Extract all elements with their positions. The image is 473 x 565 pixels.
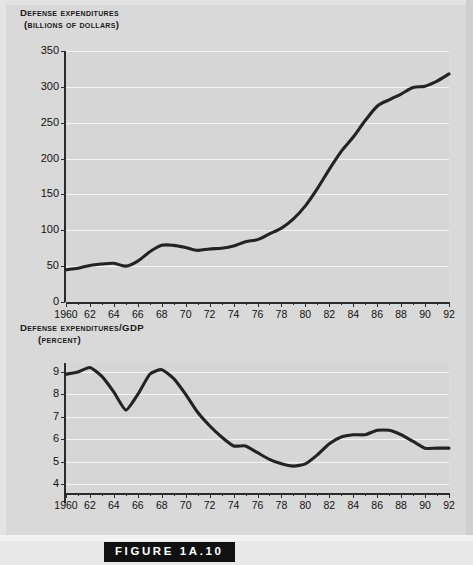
y-axis-tick-label: 8 bbox=[26, 387, 59, 399]
y-axis-tick-mark bbox=[61, 230, 65, 231]
x-axis-tick-mark bbox=[425, 493, 426, 498]
y-axis-tick-mark bbox=[61, 87, 65, 88]
chart-title-defense-expenditures-gdp: Defense expenditures/GDP (percent) bbox=[20, 322, 144, 345]
chart-title-line1: Defense expenditures bbox=[20, 7, 119, 18]
x-axis-tick-mark bbox=[246, 493, 247, 496]
x-axis-tick-mark bbox=[449, 302, 450, 307]
x-axis-tick-label: 82 bbox=[323, 499, 335, 511]
x-axis-tick-mark bbox=[102, 493, 103, 496]
x-axis-tick-mark bbox=[234, 493, 235, 498]
y-axis-tick-label: 6 bbox=[26, 432, 59, 444]
x-axis-tick-label: 68 bbox=[156, 308, 168, 320]
x-axis-tick-mark bbox=[353, 493, 354, 498]
x-axis-tick-mark bbox=[437, 493, 438, 496]
y-axis-tick-label: 7 bbox=[26, 410, 59, 422]
x-axis-tick-mark bbox=[126, 493, 127, 496]
x-axis-tick-label: 86 bbox=[371, 308, 383, 320]
chart-title-gdp-line2: (percent) bbox=[20, 334, 144, 346]
y-axis-tick-label: 0 bbox=[26, 295, 59, 307]
x-axis-tick-label: 72 bbox=[204, 308, 216, 320]
y-axis-tick-mark bbox=[61, 462, 65, 463]
x-axis-tick-mark bbox=[413, 302, 414, 305]
x-axis-tick-mark bbox=[114, 302, 115, 307]
x-axis-tick-label: 1960 bbox=[54, 499, 77, 511]
x-axis-tick-mark bbox=[293, 302, 294, 305]
x-axis-tick-mark bbox=[246, 302, 247, 305]
x-axis-tick-mark bbox=[102, 302, 103, 305]
x-axis-tick-label: 62 bbox=[84, 308, 96, 320]
series-line-defense-expenditures bbox=[66, 51, 449, 302]
x-axis-tick-mark bbox=[305, 302, 306, 307]
x-axis-tick-mark bbox=[389, 302, 390, 305]
x-axis-tick-mark bbox=[222, 493, 223, 496]
x-axis-tick-mark bbox=[329, 302, 330, 307]
x-axis-tick-mark bbox=[281, 493, 282, 498]
x-axis-tick-label: 70 bbox=[180, 499, 192, 511]
x-axis-tick-mark bbox=[90, 493, 91, 498]
frame-edge-left bbox=[0, 0, 6, 545]
x-axis-tick-mark bbox=[377, 493, 378, 498]
y-axis-tick-label: 200 bbox=[26, 152, 59, 164]
x-axis-tick-mark bbox=[186, 302, 187, 307]
y-axis-tick-mark bbox=[61, 194, 65, 195]
x-axis-tick-mark bbox=[78, 493, 79, 496]
x-axis-tick-label: 70 bbox=[180, 308, 192, 320]
x-axis-tick-label: 82 bbox=[323, 308, 335, 320]
x-axis-tick-label: 68 bbox=[156, 499, 168, 511]
y-axis-tick-mark bbox=[61, 439, 65, 440]
chart-title-line2: (billions of dollars) bbox=[20, 19, 119, 31]
x-axis-tick-mark bbox=[329, 493, 330, 498]
x-axis-tick-label: 92 bbox=[443, 308, 455, 320]
x-axis-tick-mark bbox=[210, 302, 211, 307]
x-axis-tick-mark bbox=[281, 302, 282, 307]
x-axis-tick-label: 64 bbox=[108, 499, 120, 511]
y-axis-tick-mark bbox=[61, 159, 65, 160]
x-axis-tick-mark bbox=[449, 493, 450, 498]
x-axis-tick-label: 62 bbox=[84, 499, 96, 511]
x-axis-tick-mark bbox=[78, 302, 79, 305]
x-axis-tick-mark bbox=[138, 493, 139, 498]
x-axis-tick-mark bbox=[162, 493, 163, 498]
x-axis-tick-label: 64 bbox=[108, 308, 120, 320]
caption-band bbox=[0, 541, 473, 565]
y-axis-tick-mark bbox=[61, 417, 65, 418]
y-axis-tick-label: 300 bbox=[26, 80, 59, 92]
y-axis-tick-mark bbox=[61, 372, 65, 373]
x-axis-tick-mark bbox=[210, 493, 211, 498]
y-axis-tick-mark bbox=[61, 484, 65, 485]
y-axis-tick-label: 50 bbox=[26, 259, 59, 271]
x-axis-tick-mark bbox=[174, 302, 175, 305]
y-axis-tick-label: 350 bbox=[26, 44, 59, 56]
x-axis-tick-label: 86 bbox=[371, 499, 383, 511]
x-axis-tick-mark bbox=[90, 302, 91, 307]
x-axis-tick-label: 90 bbox=[419, 308, 431, 320]
y-axis-tick-label: 100 bbox=[26, 223, 59, 235]
x-axis-tick-mark bbox=[317, 493, 318, 496]
chart-title-gdp-line1: Defense expenditures/GDP bbox=[20, 322, 144, 333]
x-axis-tick-mark bbox=[222, 302, 223, 305]
x-axis-tick-mark bbox=[341, 302, 342, 305]
x-axis-tick-label: 88 bbox=[395, 308, 407, 320]
x-axis-tick-mark bbox=[162, 302, 163, 307]
x-axis-tick-mark bbox=[150, 302, 151, 305]
x-axis-tick-mark bbox=[353, 302, 354, 307]
frame-edge-right bbox=[466, 0, 473, 545]
y-axis-tick-label: 9 bbox=[26, 365, 59, 377]
x-axis-tick-label: 66 bbox=[132, 308, 144, 320]
x-axis-tick-label: 80 bbox=[300, 499, 312, 511]
x-axis-tick-label: 76 bbox=[252, 308, 264, 320]
series-line-defense-expenditures-gdp bbox=[66, 363, 449, 493]
figure-container: Defense expenditures (billions of dollar… bbox=[0, 0, 473, 565]
x-axis-tick-mark bbox=[66, 302, 67, 307]
x-axis-tick-mark bbox=[114, 493, 115, 498]
x-axis-tick-mark bbox=[437, 302, 438, 305]
frame-edge-top bbox=[0, 0, 473, 5]
x-axis-tick-mark bbox=[401, 493, 402, 498]
y-axis-tick-label: 5 bbox=[26, 455, 59, 467]
x-axis-tick-label: 76 bbox=[252, 499, 264, 511]
x-axis-tick-mark bbox=[305, 493, 306, 498]
x-axis-tick-mark bbox=[293, 493, 294, 496]
x-axis-tick-label: 78 bbox=[276, 308, 288, 320]
x-axis-tick-label: 66 bbox=[132, 499, 144, 511]
x-axis-tick-mark bbox=[317, 302, 318, 305]
